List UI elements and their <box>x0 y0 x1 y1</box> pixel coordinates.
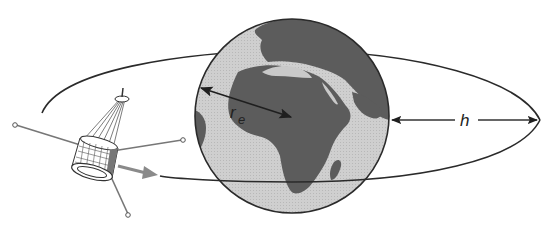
earth-globe <box>195 18 389 213</box>
altitude-label: h <box>460 111 469 130</box>
orbit-diagram: r e h <box>0 0 560 227</box>
radius-subscript: e <box>238 112 245 127</box>
satellite-icon <box>13 88 186 217</box>
motion-arrow-icon <box>118 166 158 179</box>
